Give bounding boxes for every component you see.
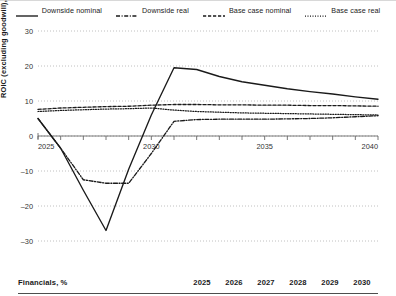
series-line-base-case-real bbox=[38, 108, 378, 115]
top-border-rule bbox=[0, 0, 396, 1]
y-tick-label-30: 30 bbox=[25, 27, 33, 36]
legend-label: Downside real bbox=[142, 6, 189, 15]
financials-table-header: Financials, % 202520262027202820292030 bbox=[0, 268, 396, 296]
x-tick-label-2025: 2025 bbox=[38, 142, 54, 151]
legend-swatch-icon bbox=[16, 6, 38, 14]
financials-year-2030: 2030 bbox=[346, 278, 378, 287]
y-tick-label--30: –30 bbox=[21, 237, 33, 246]
legend-item-base-case-nominal: Base case nominal bbox=[203, 6, 291, 15]
y-tick-label-10: 10 bbox=[25, 97, 33, 106]
y-axis-label: ROIC (excluding goodwill), % bbox=[0, 0, 8, 98]
legend-label: Downside nominal bbox=[42, 6, 102, 15]
line-chart: 3020100–10–20–302025203020352040 bbox=[0, 18, 396, 258]
chart-legend: Downside nominalDownside realBase case n… bbox=[0, 2, 396, 18]
financials-year-2028: 2028 bbox=[282, 278, 314, 287]
series-line-base-case-nominal bbox=[38, 105, 378, 110]
financials-year-2029: 2029 bbox=[314, 278, 346, 287]
legend-item-downside-nominal: Downside nominal bbox=[16, 6, 102, 15]
x-tick-label-2030: 2030 bbox=[143, 142, 159, 151]
y-tick-label-20: 20 bbox=[25, 62, 33, 71]
series-line-downside-real bbox=[38, 116, 378, 184]
legend-label: Base case nominal bbox=[229, 6, 291, 15]
x-tick-label-2040: 2040 bbox=[362, 142, 378, 151]
financials-year-headers: 202520262027202820292030 bbox=[186, 278, 378, 287]
legend-swatch-icon bbox=[203, 6, 225, 14]
financials-year-2025: 2025 bbox=[186, 278, 218, 287]
legend-swatch-icon bbox=[305, 6, 327, 14]
financials-year-2026: 2026 bbox=[218, 278, 250, 287]
financials-label: Financials, % bbox=[18, 278, 67, 287]
y-tick-label--10: –10 bbox=[21, 167, 33, 176]
footer-divider bbox=[18, 293, 378, 294]
chart-area: ROIC (excluding goodwill), % 3020100–10–… bbox=[0, 18, 396, 258]
y-tick-label--20: –20 bbox=[21, 202, 33, 211]
legend-item-base-case-real: Base case real bbox=[305, 6, 380, 15]
legend-label: Base case real bbox=[331, 6, 380, 15]
chart-page: Downside nominalDownside realBase case n… bbox=[0, 0, 396, 296]
y-tick-label-0: 0 bbox=[29, 132, 33, 141]
legend-item-downside-real: Downside real bbox=[116, 6, 189, 15]
legend-swatch-icon bbox=[116, 6, 138, 14]
financials-year-2027: 2027 bbox=[250, 278, 282, 287]
x-tick-label-2035: 2035 bbox=[256, 142, 272, 151]
